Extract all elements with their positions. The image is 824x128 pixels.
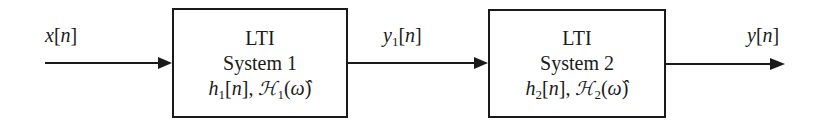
system-1-subtitle: System 1 [223, 51, 297, 76]
intermediate-arrowhead-icon [474, 57, 488, 69]
intermediate-signal-label: y1[n] [383, 24, 422, 47]
system-1-responses: h1[n], ℋ1(ω̂) [209, 76, 312, 101]
signal-wires [0, 0, 824, 128]
system-2-title: LTI [562, 26, 591, 51]
lti-system-1-block: LTI System 1 h1[n], ℋ1(ω̂) [172, 8, 348, 118]
lti-system-2-block: LTI System 2 h2[n], ℋ2(ω̂) [488, 9, 666, 118]
output-signal-label: y[n] [747, 24, 779, 47]
system-2-responses: h2[n], ℋ2(ω̂) [526, 76, 629, 101]
input-signal-label: x[n] [45, 24, 77, 47]
system-2-subtitle: System 2 [540, 51, 614, 76]
system-1-title: LTI [245, 26, 274, 51]
input-arrowhead-icon [158, 57, 172, 69]
output-arrowhead-icon [770, 58, 785, 70]
